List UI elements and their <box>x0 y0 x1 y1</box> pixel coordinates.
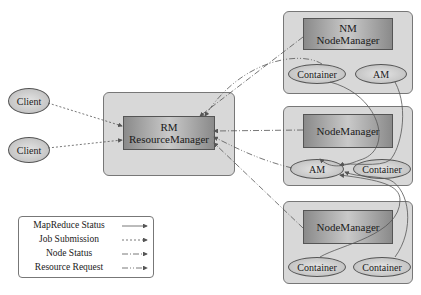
container-label: Container <box>362 164 401 175</box>
node-manager-3: NodeManager <box>303 210 393 244</box>
container-label: Container <box>297 262 336 273</box>
nm-abbr: NM <box>339 22 357 34</box>
client-label: Client <box>17 145 41 156</box>
am-1: AM <box>355 64 407 84</box>
nm-label: NodeManager <box>317 34 380 46</box>
node-manager-1: NM NodeManager <box>303 18 393 50</box>
container-3b: Container <box>353 257 411 277</box>
legend-line-samples <box>19 217 153 277</box>
rm-abbr: RM <box>160 121 177 133</box>
container-label: Container <box>297 69 336 80</box>
am-label: AM <box>309 164 325 175</box>
am-2: AM <box>290 159 344 179</box>
nm-label: NodeManager <box>317 125 380 137</box>
container-label: Container <box>362 262 401 273</box>
container-3a: Container <box>288 257 346 277</box>
rm-label: ResourceManager <box>129 133 209 145</box>
container-2b: Container <box>353 159 411 179</box>
client-label: Client <box>17 96 41 107</box>
legend: MapReduce Status Job Submission Node Sta… <box>18 216 154 278</box>
container-1a: Container <box>288 64 346 84</box>
nm-label: NodeManager <box>317 221 380 233</box>
am-label: AM <box>373 69 389 80</box>
client-2: Client <box>8 137 50 163</box>
node-manager-2: NodeManager <box>303 114 393 148</box>
client-1: Client <box>8 88 50 114</box>
resource-manager-box: RM ResourceManager <box>123 116 215 150</box>
